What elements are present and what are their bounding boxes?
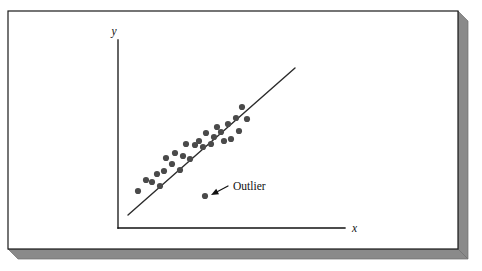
scatter-point bbox=[211, 134, 217, 140]
scatter-point bbox=[163, 155, 169, 161]
scatter-point bbox=[221, 138, 227, 144]
scatter-point bbox=[183, 141, 189, 147]
scatter-point bbox=[149, 179, 155, 185]
scatter-point bbox=[203, 130, 209, 136]
shadow-bottom-face bbox=[8, 249, 468, 259]
scatter-point bbox=[177, 167, 183, 173]
scatter-point bbox=[143, 177, 149, 183]
scatter-point bbox=[157, 183, 163, 189]
scatter-point bbox=[135, 188, 141, 194]
outlier-label: Outlier bbox=[233, 180, 266, 192]
shadow-right-face bbox=[458, 11, 468, 259]
scatter-point bbox=[161, 168, 167, 174]
scatter-point bbox=[225, 121, 231, 127]
scatter-point bbox=[244, 116, 250, 122]
scatter-point bbox=[180, 153, 186, 159]
scatter-point bbox=[228, 136, 234, 142]
figure-container: y x Outlier bbox=[0, 0, 482, 271]
x-axis-label: x bbox=[351, 222, 358, 234]
y-axis-label: y bbox=[110, 25, 117, 38]
figure-panel bbox=[8, 11, 458, 249]
scatter-point bbox=[169, 161, 175, 167]
scatter-point bbox=[187, 156, 193, 162]
scatter-point bbox=[233, 115, 239, 121]
scatter-point bbox=[196, 138, 202, 144]
scatter-point bbox=[208, 141, 214, 147]
scatter-point bbox=[172, 150, 178, 156]
outlier-point bbox=[202, 193, 208, 199]
scatter-point bbox=[214, 124, 220, 130]
scatter-point bbox=[200, 144, 206, 150]
scatter-point bbox=[154, 171, 160, 177]
scatter-point bbox=[218, 129, 224, 135]
scatter-point bbox=[236, 128, 242, 134]
scatter-point bbox=[239, 104, 245, 110]
scatter-plot-figure: y x Outlier bbox=[0, 0, 482, 271]
